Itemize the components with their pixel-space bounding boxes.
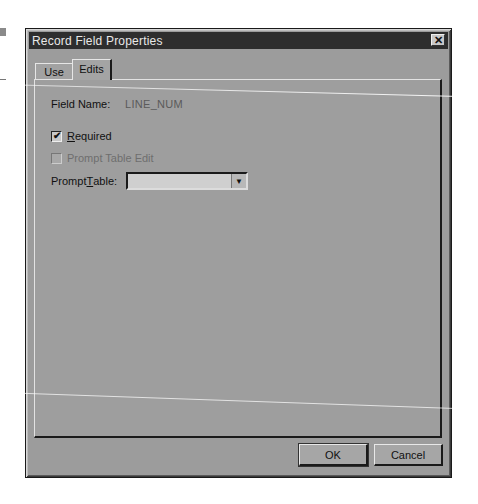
- tab-edits[interactable]: Edits: [72, 59, 112, 80]
- dropdown-arrow-icon: ▼: [235, 177, 243, 186]
- window-title: Record Field Properties: [29, 34, 163, 48]
- cancel-button[interactable]: Cancel: [374, 444, 443, 466]
- page-margin-rule: [0, 79, 6, 80]
- checkmark-icon: ✔: [53, 131, 61, 141]
- prompt-table-label: Prompt Table:: [51, 175, 117, 187]
- tab-use-label: Use: [44, 66, 64, 78]
- record-field-properties-dialog: Record Field Properties ✕ Use Edits Fiel…: [25, 28, 452, 478]
- close-icon: ✕: [434, 35, 443, 46]
- required-label: Required: [67, 130, 112, 142]
- field-name-value: LINE_NUM: [125, 98, 183, 110]
- page-margin-mark: [0, 28, 6, 36]
- dropdown-button[interactable]: ▼: [231, 174, 246, 188]
- close-button[interactable]: ✕: [431, 34, 445, 46]
- prompt-table-edit-checkbox-row: Prompt Table Edit: [51, 152, 154, 164]
- title-bar: Record Field Properties ✕: [29, 32, 448, 49]
- edits-tab-panel: Field Name: LINE_NUM ✔ Required Prompt T…: [34, 79, 442, 438]
- prompt-table-edit-label: Prompt Table Edit: [67, 152, 154, 164]
- ok-button[interactable]: OK: [299, 444, 368, 466]
- required-checkbox[interactable]: ✔: [51, 131, 62, 142]
- field-name-label: Field Name:: [51, 98, 110, 110]
- required-checkbox-row[interactable]: ✔ Required: [51, 130, 112, 142]
- prompt-table-dropdown[interactable]: ▼: [126, 172, 248, 190]
- tab-use[interactable]: Use: [35, 63, 72, 79]
- tab-edits-label: Edits: [79, 63, 103, 75]
- prompt-table-edit-checkbox: [51, 153, 62, 164]
